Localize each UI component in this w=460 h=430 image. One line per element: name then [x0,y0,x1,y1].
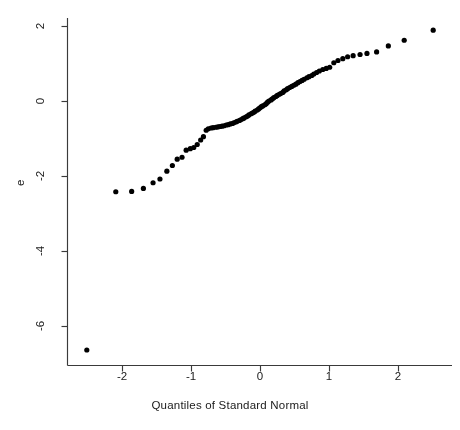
y-tick-label: -4 [34,246,46,256]
y-tick-label: -6 [34,321,46,331]
x-tick-label: -2 [117,370,127,382]
qq-plot-canvas [0,0,460,430]
x-tick-label: -1 [186,370,196,382]
y-tick-label: 2 [34,23,46,29]
y-tick-label: -2 [34,171,46,181]
x-tick-label: 0 [257,370,263,382]
y-tick-label: 0 [34,98,46,104]
x-tick-label: 2 [395,370,401,382]
x-axis-title: Quantiles of Standard Normal [0,399,460,411]
y-axis-title: e [14,179,26,186]
qq-plot: Quantiles of Standard Normal e -2-1012 2… [0,0,460,430]
x-tick-label: 1 [326,370,332,382]
